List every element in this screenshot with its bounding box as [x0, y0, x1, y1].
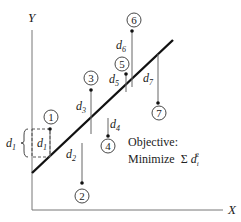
objective-text: Objective: MinimizeΣdi2: [128, 135, 200, 168]
point-label-7: 7: [156, 107, 162, 119]
point-label-1: 1: [48, 111, 54, 123]
residual-label-3: d3: [76, 99, 86, 115]
data-point-2: 2 d2: [66, 143, 89, 203]
point-label-2: 2: [79, 190, 85, 202]
objective-line1: Objective:: [128, 135, 178, 149]
x-axis-label: X: [227, 202, 237, 217]
residual-label-7: d7: [143, 71, 154, 87]
bracket-d1: d1: [6, 129, 28, 157]
data-point-5: 5 d5: [109, 57, 129, 92]
point-label-5: 5: [119, 58, 125, 70]
residual-label-6: d6: [116, 38, 126, 54]
bracket-label: d1: [6, 136, 16, 152]
objective-line2: MinimizeΣdi2: [128, 151, 200, 168]
residual-label-5: d5: [109, 72, 119, 88]
residual-label-2: d2: [66, 147, 76, 163]
brace-icon: [21, 129, 28, 157]
residual-label-1: d1: [37, 136, 47, 152]
data-point-3: 3 d3: [76, 71, 98, 134]
y-axis-label: Y: [28, 10, 37, 25]
residual-label-4: d4: [110, 117, 120, 133]
data-point-6: 6 d6: [116, 13, 141, 87]
point-label-4: 4: [105, 140, 111, 152]
point-label-3: 3: [88, 72, 94, 84]
data-point-1: 1 d1: [32, 110, 58, 157]
point-label-6: 6: [131, 14, 137, 26]
least-squares-diagram: Y X 1 d1 d1 2 d2 3 d3 4 d4: [0, 0, 241, 222]
data-point-4: 4 d4: [101, 117, 120, 153]
